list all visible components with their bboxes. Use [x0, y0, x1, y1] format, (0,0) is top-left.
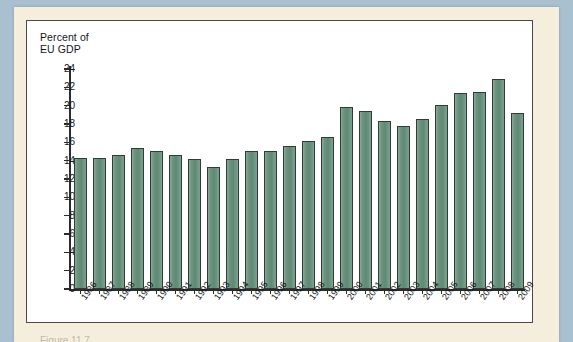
bar-2007 — [473, 92, 486, 289]
y-tick-label: 2 — [39, 265, 75, 277]
bar-2003 — [397, 126, 410, 289]
y-tick-label: 14 — [39, 155, 75, 167]
bar-2008 — [492, 79, 505, 289]
y-tick-label: 16 — [39, 136, 75, 148]
bar-2000 — [340, 107, 353, 289]
bar-1987 — [93, 158, 106, 289]
y-axis-title: Percent of EU GDP — [40, 31, 89, 55]
y-tick-label: 6 — [39, 228, 75, 240]
bar-1989 — [131, 148, 144, 289]
y-tick-mark — [64, 288, 69, 290]
y-tick-mark — [64, 197, 69, 199]
bar-1992 — [188, 159, 201, 289]
bar-2009 — [511, 113, 524, 289]
y-tick-mark — [64, 215, 69, 217]
y-tick-mark — [64, 270, 69, 272]
plot-area: 024681012141618202224 198619871988198919… — [69, 69, 525, 289]
bar-1990 — [150, 151, 163, 289]
chart-figure: Percent of EU GDP 024681012141618202224 … — [26, 20, 533, 323]
bar-2005 — [435, 105, 448, 289]
bar-2001 — [359, 111, 372, 289]
y-tick-mark — [64, 105, 69, 107]
y-tick-mark — [64, 123, 69, 125]
y-tick-label: 12 — [39, 173, 75, 185]
y-tick-label: 4 — [39, 246, 75, 258]
bar-1994 — [226, 159, 239, 289]
bar-2004 — [416, 119, 429, 290]
scanned-page-background: Percent of EU GDP 024681012141618202224 … — [0, 0, 573, 342]
bar-1988 — [112, 155, 125, 289]
paper-sheet: Percent of EU GDP 024681012141618202224 … — [14, 7, 559, 342]
bar-1993 — [207, 167, 220, 289]
figure-caption-clipped: Figure 11.7 — [40, 335, 190, 342]
bar-1996 — [264, 151, 277, 289]
bar-2006 — [454, 93, 467, 289]
y-tick-mark — [64, 233, 69, 235]
y-tick-label: 22 — [39, 81, 75, 93]
y-tick-mark — [64, 252, 69, 254]
y-tick-mark — [64, 142, 69, 144]
y-tick-mark — [64, 87, 69, 89]
bar-1997 — [283, 146, 296, 289]
y-tick-label: 8 — [39, 210, 75, 222]
bar-1999 — [321, 137, 334, 289]
bar-1998 — [302, 141, 315, 289]
y-tick-mark — [64, 68, 69, 70]
y-tick-label: 20 — [39, 100, 75, 112]
y-tick-label: 24 — [39, 63, 75, 75]
bar-1991 — [169, 155, 182, 289]
bar-1986 — [74, 158, 87, 289]
y-tick-mark — [64, 178, 69, 180]
bar-2002 — [378, 121, 391, 289]
y-tick-label: 0 — [39, 283, 75, 295]
y-tick-label: 18 — [39, 118, 75, 130]
bar-1995 — [245, 151, 258, 289]
y-tick-label: 10 — [39, 191, 75, 203]
y-tick-mark — [64, 160, 69, 162]
